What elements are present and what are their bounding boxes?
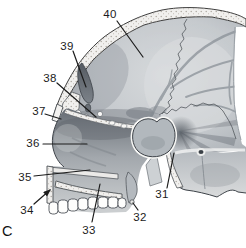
temporal-bone [171, 149, 246, 197]
anterior-maxilla-strip [47, 166, 53, 204]
label-33: 33 [82, 224, 96, 236]
skull-sagittal-figure: 40 39 38 37 36 35 34 33 32 31 C [0, 0, 246, 248]
label-37: 37 [32, 105, 46, 117]
skull-diagram-canvas: 40 39 38 37 36 35 34 33 32 31 C [0, 0, 246, 248]
label-39: 39 [60, 40, 74, 52]
label-35: 35 [18, 171, 32, 183]
sella-sphenoid-complex [133, 119, 175, 157]
leader-32 [133, 203, 138, 210]
panel-letter: C [2, 223, 12, 239]
label-32: 32 [133, 211, 147, 223]
label-40: 40 [103, 8, 117, 20]
label-38: 38 [43, 72, 57, 84]
label-34: 34 [20, 204, 34, 216]
acoustic-meatus [198, 149, 205, 155]
label-31: 31 [155, 188, 169, 200]
label-36: 36 [26, 137, 40, 149]
